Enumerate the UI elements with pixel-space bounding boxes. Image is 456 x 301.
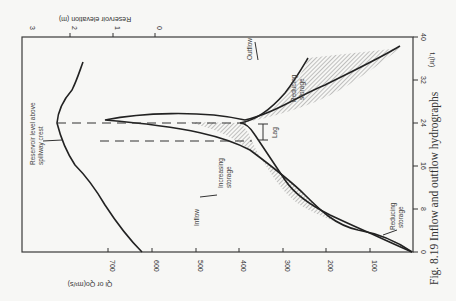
t-tick-16: 16: [420, 162, 427, 170]
reservoir-pointer: [43, 140, 62, 141]
t-tick-32: 32: [420, 76, 427, 84]
hydrograph-chart: 0 8 16 24 32 40 t,(hr) 700 600 500 400 3…: [0, 0, 456, 301]
lag-label: Lag: [271, 127, 279, 138]
q-tick-300: 300: [284, 260, 291, 272]
t-tick-0: 0: [420, 250, 427, 254]
reducing-storage-early-label-2: storage: [397, 206, 405, 228]
inflow-pointer: [200, 195, 217, 197]
figure-caption: Fig. 8.19 Inflow and outflow hydrographs: [428, 91, 441, 285]
t-tick-40: 40: [420, 33, 427, 41]
q-tick-200: 200: [327, 260, 334, 272]
t-tick-24: 24: [420, 119, 427, 127]
q-tick-500: 500: [197, 260, 204, 272]
t-axis-label: t,(hr): [428, 53, 436, 68]
elevation-axis: 3 2 1 0 Reservoir elevation (m): [29, 15, 163, 37]
reducing-storage-late-label-2: storage: [298, 78, 306, 100]
q-tick-700: 700: [109, 260, 116, 272]
q-tick-600: 600: [153, 260, 160, 272]
q-tick-400: 400: [240, 260, 247, 272]
q-tick-100: 100: [371, 260, 378, 272]
reducing-storage-late-label-1: Reducing: [290, 74, 298, 102]
t-tick-8: 8: [420, 207, 427, 211]
e-tick-1: 1: [114, 26, 121, 30]
e-tick-3: 3: [29, 26, 36, 30]
e-tick-0: 0: [156, 26, 163, 30]
increasing-storage-label-2: storage: [225, 166, 233, 188]
reservoir-label-line1: Reservoir level above: [29, 102, 36, 165]
reservoir-level-curve: [57, 62, 142, 252]
reducing-storage-early-label-1: Reducing: [389, 202, 397, 230]
inflow-curve: [105, 46, 412, 252]
inflow-label: Inflow: [193, 209, 200, 226]
elevation-axis-label: Reservoir elevation (m): [59, 15, 131, 23]
reservoir-label-line2: spillway crest: [37, 126, 45, 165]
outflow-label: Outflow: [246, 38, 253, 60]
q-axis-label: Qi or Qo(m³/s): [68, 280, 113, 288]
outflow-pointer: [255, 42, 258, 60]
e-tick-2: 2: [71, 26, 78, 30]
q-axis: 700 600 500 400 300 200 100 Qi or Qo(m³/…: [68, 248, 378, 288]
increasing-storage-label-1: Increasing: [217, 158, 225, 188]
